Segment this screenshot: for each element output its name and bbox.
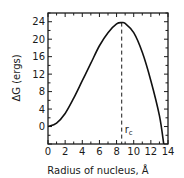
- x-tick-label: 14: [162, 146, 175, 157]
- y-tick-label: 8: [39, 86, 45, 97]
- y-tick-label: 24: [32, 16, 45, 27]
- delta-g-curve: [48, 22, 164, 144]
- x-tick-label: 8: [113, 146, 119, 157]
- x-tick-label: 2: [62, 146, 68, 157]
- critical-radius-marker: rc: [122, 23, 133, 144]
- y-tick-label: 20: [32, 34, 45, 45]
- x-tick-label: 6: [96, 146, 102, 157]
- y-axis-label: ΔG (ergs): [11, 54, 22, 101]
- x-tick-label: 12: [144, 146, 157, 157]
- y-tick-label: 0: [39, 121, 45, 132]
- chart-canvas: 0246810121404812162024 rc Radius of nucl…: [0, 0, 184, 178]
- x-tick-label: 10: [127, 146, 140, 157]
- curve-path: [48, 22, 164, 144]
- y-tick-label: 16: [32, 51, 45, 62]
- x-tick-label: 4: [79, 146, 85, 157]
- x-tick-label: 0: [45, 146, 51, 157]
- y-tick-label: 4: [39, 104, 45, 115]
- y-tick-label: 12: [32, 69, 45, 80]
- x-axis-label: Radius of nucleus, Å: [47, 164, 149, 176]
- axis-ticks: 0246810121404812162024: [32, 13, 174, 157]
- rc-label: rc: [125, 124, 133, 137]
